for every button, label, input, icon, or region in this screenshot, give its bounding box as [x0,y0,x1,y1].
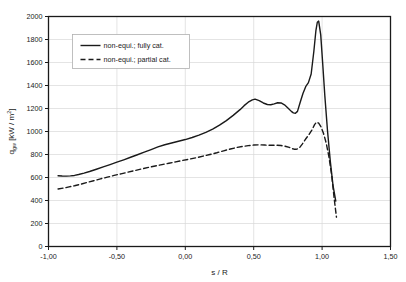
y-tick-label: 200 [31,219,43,228]
y-axis-title: qgw [kW / m2] [6,109,17,155]
legend: non-equi.; fully cat.non-equi.; partial … [73,35,190,69]
y-axis-title-close: ] [7,109,16,111]
y-tick-label: 1200 [27,104,43,113]
x-axis-title: s / R [211,268,228,277]
legend-label-1: non-equi.; fully cat. [104,41,164,50]
y-tick-label: 0 [39,242,43,251]
x-tick-label: 0,50 [247,252,261,261]
y-tick-label: 1000 [27,127,43,136]
y-tick-label: 1600 [27,58,43,67]
y-axis-title-unit: [kW / m [7,113,16,143]
y-tick-label: 600 [31,173,43,182]
x-tick-label: -1,00 [40,252,56,261]
x-tick-label: 0,00 [178,252,192,261]
x-tick-label: 1,00 [315,252,329,261]
svg-text:qgw [kW / m2]: qgw [kW / m2] [6,109,17,155]
y-tick-label: 1400 [27,81,43,90]
x-tick-label: -0,50 [109,252,125,261]
chart-figure: 0200400600800100012001400160018002000-1,… [0,0,406,282]
y-tick-label: 400 [31,196,43,205]
line-chart: 0200400600800100012001400160018002000-1,… [0,0,406,282]
y-tick-label: 1800 [27,35,43,44]
x-tick-label: 1,50 [384,252,398,261]
y-tick-label: 800 [31,150,43,159]
y-tick-label: 2000 [27,12,43,21]
legend-label-2: non-equi.; partial cat. [104,55,171,64]
